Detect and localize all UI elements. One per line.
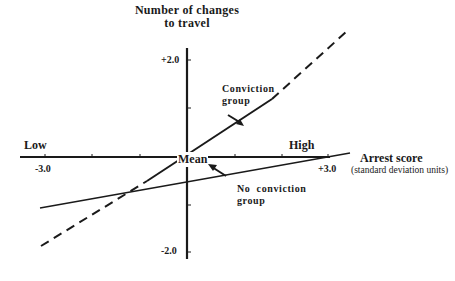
conviction-annotation-line1: Conviction <box>222 83 275 95</box>
x-axis-subtitle: (standard deviation units) <box>351 165 448 175</box>
chart-plot-area <box>0 0 455 281</box>
conviction-arrow-icon <box>228 115 244 126</box>
conviction-line-dashed-upper <box>272 32 346 99</box>
x-low-label: Low <box>24 138 47 153</box>
no-conviction-annotation-line1: No conviction <box>237 183 307 195</box>
x-high-label: High <box>289 138 314 153</box>
no-conviction-group-annotation: No conviction group <box>237 183 307 207</box>
no-conviction-annotation-line2: group <box>237 195 307 207</box>
x-axis-title: Arrest score <box>360 151 423 166</box>
x-tick-left: -3.0 <box>35 163 51 174</box>
y-tick-top: +2.0 <box>161 54 179 65</box>
y-axis-title-line2: to travel <box>118 17 256 30</box>
x-tick-right: +3.0 <box>318 163 336 174</box>
no-conviction-arrow-icon <box>208 164 226 176</box>
conviction-annotation-line2: group <box>222 95 275 107</box>
conviction-line-dashed-lower <box>41 181 147 246</box>
y-axis-title: Number of changes to travel <box>118 4 256 30</box>
y-tick-bottom: -2.0 <box>161 245 177 256</box>
conviction-line-solid <box>147 99 272 181</box>
mean-label: Mean <box>177 152 208 167</box>
conviction-group-annotation: Conviction group <box>222 83 275 107</box>
